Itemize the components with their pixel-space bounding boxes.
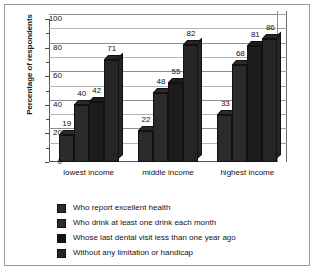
y-tick-label: 60 (36, 72, 62, 80)
wall-depth-tick (277, 14, 287, 15)
legend-label: Who report excellent health (73, 204, 170, 212)
bar-group: 33688186 (217, 19, 277, 162)
bar-value-label: 82 (178, 30, 204, 38)
bar-front-face (168, 83, 183, 162)
category-label: highest income (208, 168, 287, 177)
legend-label: Who drink at least one drink each month (73, 219, 216, 227)
y-tick-mark (46, 119, 49, 120)
legend-item[interactable]: Who drink at least one drink each month (57, 216, 216, 230)
y-tick-label: 20 (36, 129, 62, 137)
bar: 22 (138, 131, 153, 162)
bar-front-face (217, 115, 232, 162)
legend-swatch-icon (57, 204, 66, 213)
bar: 71 (104, 60, 119, 162)
bar-front-face (138, 131, 153, 162)
legend-swatch-icon (57, 249, 66, 258)
legend-item[interactable]: Without any limitation or handicap (57, 246, 193, 260)
bar: 81 (247, 46, 262, 162)
legend-item[interactable]: Whose last dental visit less than one ye… (57, 231, 236, 245)
bar: 40 (74, 105, 89, 162)
bar: 55 (168, 83, 183, 162)
category-label: lowest income (49, 168, 128, 177)
bar-front-face (153, 93, 168, 162)
bar-front-face (232, 65, 247, 162)
chart-axes: 194042712248558233688186 (49, 19, 287, 162)
bar: 86 (262, 39, 277, 162)
gridline (49, 14, 287, 15)
bar-value-label: 86 (257, 24, 283, 32)
chart-figure: Percentage of respondents 19404271224855… (4, 4, 310, 266)
bar: 68 (232, 65, 247, 162)
bar-group: 22485582 (138, 19, 198, 162)
y-tick-mark (46, 91, 49, 92)
legend-swatch-icon (57, 234, 66, 243)
plot-area: Percentage of respondents 19404271224855… (5, 5, 311, 191)
bar-front-face (89, 102, 104, 162)
bar: 48 (153, 93, 168, 162)
bar-group: 19404271 (59, 19, 119, 162)
y-tick-mark (46, 62, 49, 63)
bar-front-face (104, 60, 119, 162)
bar: 42 (89, 102, 104, 162)
y-axis-title: Percentage of respondents (25, 0, 34, 135)
y-tick-label: 0 (36, 158, 62, 166)
bar-front-face (262, 39, 277, 162)
bar-front-face (247, 46, 262, 162)
bar: 33 (217, 115, 232, 162)
y-tick-mark (46, 148, 49, 149)
y-tick-label: 40 (36, 101, 62, 109)
chart-legend: Who report excellent healthWho drink at … (5, 195, 311, 265)
legend-label: Without any limitation or handicap (73, 249, 193, 257)
y-tick-label: 100 (36, 15, 62, 23)
bar-front-face (74, 105, 89, 162)
bar: 82 (183, 45, 198, 162)
y-tick-mark (46, 33, 49, 34)
y-tick-label: 80 (36, 44, 62, 52)
legend-label: Whose last dental visit less than one ye… (73, 234, 236, 242)
bar-front-face (183, 45, 198, 162)
bar-value-label: 71 (99, 45, 125, 53)
legend-swatch-icon (57, 219, 66, 228)
legend-item[interactable]: Who report excellent health (57, 201, 170, 215)
category-label: middle income (128, 168, 207, 177)
